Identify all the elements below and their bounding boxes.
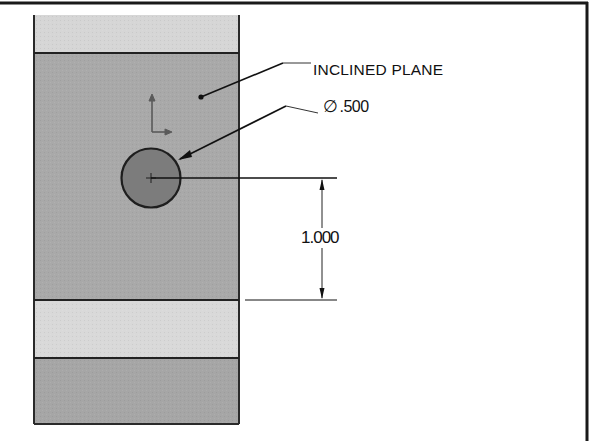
dimension-arrow-up-icon: [320, 179, 325, 190]
diameter-symbol-icon: ∅: [323, 97, 338, 116]
dimension-value-label[interactable]: 1.000: [300, 228, 340, 248]
drawing-canvas: [0, 0, 591, 441]
inclined-plane-label: INCLINED PLANE: [313, 61, 443, 79]
dimension-arrow-down-icon: [320, 288, 325, 299]
hole-diameter-value: .500: [340, 98, 369, 115]
hole-diameter-label[interactable]: ∅.500: [323, 96, 369, 117]
part-body: [34, 15, 239, 424]
